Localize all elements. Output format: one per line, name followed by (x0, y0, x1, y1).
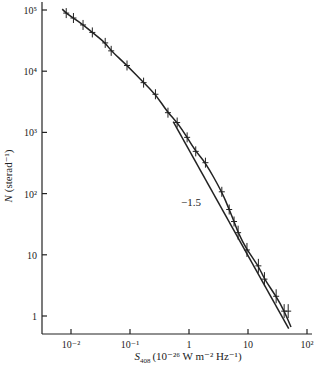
y-tick-label: 10³ (24, 127, 37, 138)
slope-reference-line (173, 122, 289, 329)
x-tick-label: 1 (187, 339, 192, 350)
x-tick-label: 10² (301, 339, 314, 350)
slope-line (173, 122, 289, 329)
slope-annotation: −1.5 (181, 196, 201, 208)
y-tick-label: 10² (24, 189, 37, 200)
x-tick-label: 10 (243, 339, 253, 350)
y-tick-label: 10 (27, 250, 37, 261)
data-point (63, 8, 69, 18)
y-tick-label: 10⁵ (24, 5, 38, 16)
fitted-curve (62, 9, 291, 327)
annotations: −1.5 (181, 196, 201, 208)
x-tick-label: 10⁻² (62, 339, 80, 350)
y-tick-label: 10⁴ (24, 66, 38, 77)
x-axis-label: S408(10⁻²⁶ W m⁻² Hz⁻¹) (134, 350, 241, 365)
data-point (89, 27, 95, 37)
fit-curve-path (62, 9, 291, 327)
x-axis-ticks: 10⁻²10⁻¹11010² (62, 329, 314, 350)
data-point (70, 13, 76, 23)
log-log-source-count-chart: 10⁻²10⁻¹11010² 11010²10³10⁴10⁵ −1.5 S408… (0, 0, 321, 371)
y-axis-label: N(sterad⁻¹) (2, 149, 15, 203)
y-axis-ticks: 11010²10³10⁴10⁵ (24, 5, 48, 322)
axes (42, 2, 312, 334)
x-tick-label: 10⁻¹ (121, 339, 139, 350)
y-tick-label: 1 (32, 311, 37, 322)
data-point (141, 78, 147, 88)
data-point (80, 20, 86, 30)
data-point (124, 60, 130, 70)
